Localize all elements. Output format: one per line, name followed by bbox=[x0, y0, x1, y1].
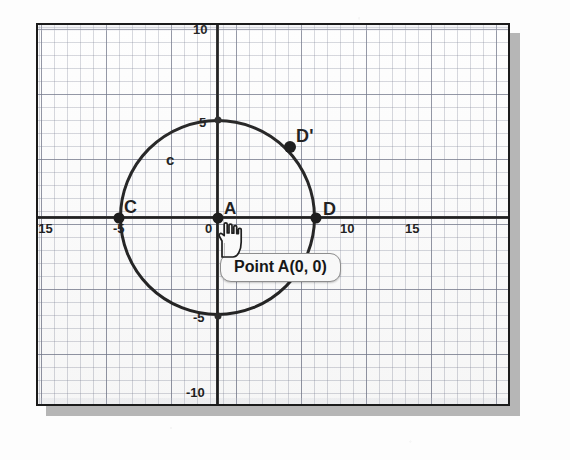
circle-top-intersection-point[interactable] bbox=[215, 117, 222, 124]
x-tick-label-minus15: -15 bbox=[36, 221, 53, 236]
geometry-applet-window[interactable]: A C D D' c -15 -5 0 10 15 10 5 -5 -10 Po… bbox=[36, 23, 510, 406]
x-tick-label-minus5: -5 bbox=[113, 221, 125, 236]
point-d-label: D bbox=[323, 199, 336, 220]
y-tick-label-minus10: -10 bbox=[186, 385, 205, 400]
x-tick-label-10: 10 bbox=[340, 221, 354, 236]
point-d-prime-label: D' bbox=[296, 126, 314, 147]
circle-label: c bbox=[166, 151, 175, 168]
x-tick-label-zero: 0 bbox=[205, 221, 212, 236]
point-d-prime[interactable] bbox=[284, 141, 296, 153]
x-tick-label-15: 15 bbox=[405, 221, 419, 236]
y-tick-label-5: 5 bbox=[199, 115, 206, 130]
circle-bottom-intersection-point[interactable] bbox=[215, 313, 222, 320]
point-d[interactable] bbox=[311, 213, 322, 224]
point-c-label: C bbox=[124, 197, 137, 218]
pointing-hand-cursor-icon bbox=[215, 219, 245, 259]
y-tick-label-minus5: -5 bbox=[193, 310, 205, 325]
y-tick-label-10: 10 bbox=[193, 23, 207, 37]
point-a-label: A bbox=[224, 199, 236, 219]
